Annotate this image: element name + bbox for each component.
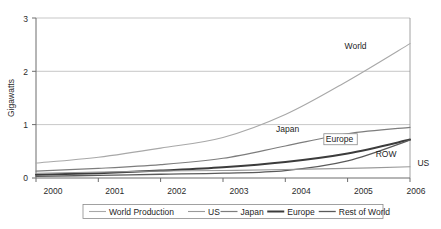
x-tick-label-2001: 2001 [105, 186, 124, 196]
x-tick-label-2006: 2006 [407, 186, 426, 196]
x-tick-label-2005: 2005 [354, 186, 373, 196]
legend-label-europe: Europe [287, 207, 315, 217]
x-tick-label-2000: 2000 [44, 186, 63, 196]
annotation-label-europe: Europe [326, 134, 354, 144]
y-tick-labels: 3 2 1 0 [23, 14, 28, 184]
y-tick-label-0: 0 [23, 173, 28, 183]
series-annotations-layer: WorldJapanEuropeROWUS [276, 41, 430, 168]
data-series-layer [36, 44, 410, 177]
y-tick-label-2: 2 [23, 67, 28, 77]
annotation-label-world: World [345, 41, 367, 51]
series-line-world-production [36, 44, 410, 163]
x-tick-labels: 2000 2001 2002 2003 2004 2005 2006 [44, 186, 426, 196]
line-chart: 3 2 1 0 Gigawatts 2000 2001 2002 2003 20… [0, 0, 441, 229]
x-tick-label-2003: 2003 [230, 186, 249, 196]
y-axis-title: Gigawatts [6, 79, 16, 117]
chart-figure: 3 2 1 0 Gigawatts 2000 2001 2002 2003 20… [0, 0, 441, 229]
y-tickmarks [32, 18, 36, 178]
x-tick-label-2002: 2002 [167, 186, 186, 196]
x-tickmarks [36, 178, 410, 182]
legend-label-world-production: World Production [109, 207, 174, 217]
y-tick-label-1: 1 [23, 120, 28, 130]
gridlines [36, 18, 410, 125]
legend-entries: World ProductionUSJapanEuropeRest of Wor… [89, 207, 390, 217]
x-tick-label-2004: 2004 [292, 186, 311, 196]
annotation-label-japan: Japan [276, 124, 299, 134]
legend-label-rest-of-world: Rest of World [339, 207, 391, 217]
annotation-label-row: ROW [376, 149, 397, 159]
annotation-label-us: US [417, 158, 429, 168]
chart-legend: World ProductionUSJapanEuropeRest of Wor… [83, 205, 390, 219]
legend-label-us: US [208, 207, 220, 217]
y-tick-label-3: 3 [23, 14, 28, 24]
legend-label-japan: Japan [241, 207, 264, 217]
